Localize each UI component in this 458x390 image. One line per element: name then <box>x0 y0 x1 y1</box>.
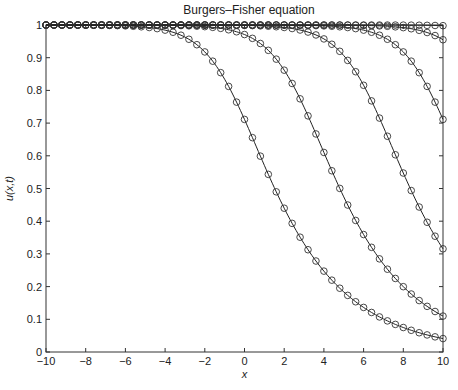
y-tick-label: 0.2 <box>27 281 42 293</box>
y-tick-label: 1 <box>36 19 42 31</box>
y-tick-label: 0.1 <box>27 313 42 325</box>
x-tick-label: 10 <box>437 355 449 367</box>
y-tick-label: 0.6 <box>27 150 42 162</box>
y-tick-label: 0.3 <box>27 248 42 260</box>
x-tick-label: 8 <box>400 355 406 367</box>
x-tick-label: −6 <box>119 355 132 367</box>
x-tick-label: 2 <box>281 355 287 367</box>
x-tick-label: −2 <box>199 355 212 367</box>
x-axis-label: x <box>241 368 248 380</box>
x-tick-label: 0 <box>241 355 247 367</box>
x-tick-label: −4 <box>159 355 172 367</box>
y-tick-label: 0.8 <box>27 84 42 96</box>
y-axis-label: u(x,t) <box>3 176 15 201</box>
y-tick-label: 0.7 <box>27 117 42 129</box>
x-tick-label: −8 <box>79 355 92 367</box>
y-tick-label: 0 <box>36 346 42 358</box>
series-line-t2 <box>46 25 443 316</box>
axes-frame <box>46 25 443 352</box>
plot-area: −10−8−6−4−2024681000.10.20.30.40.50.60.7… <box>0 0 458 390</box>
series-line-t1 <box>46 25 443 339</box>
x-tick-label: 6 <box>361 355 367 367</box>
y-tick-label: 0.9 <box>27 52 42 64</box>
series-line-t3 <box>46 25 443 249</box>
y-tick-label: 0.5 <box>27 183 42 195</box>
y-tick-label: 0.4 <box>27 215 42 227</box>
series-line-t4 <box>46 25 443 119</box>
x-tick-label: 4 <box>321 355 327 367</box>
